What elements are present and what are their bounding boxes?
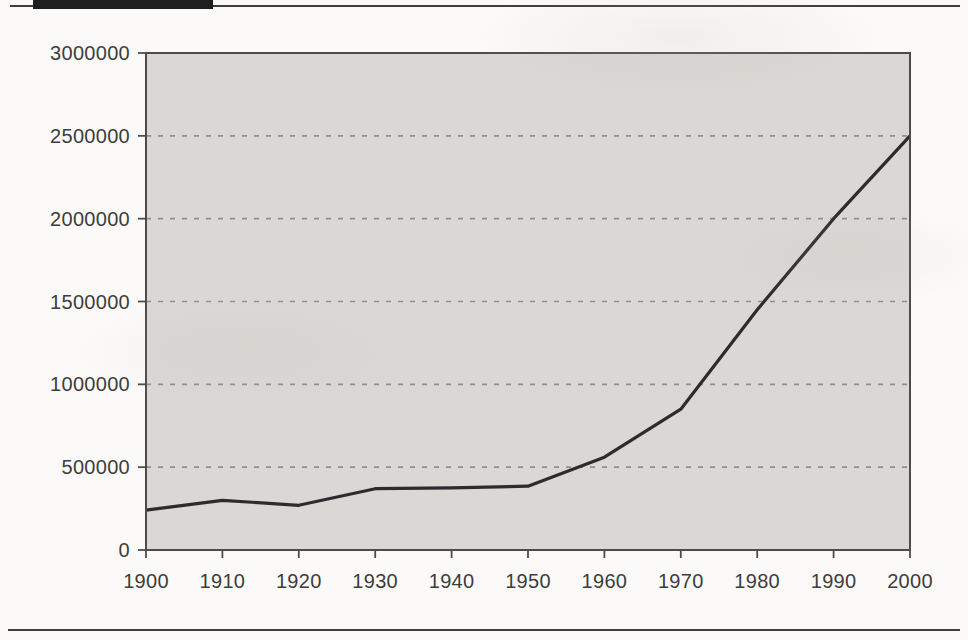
y-axis-label: 2000000 [0,209,130,229]
y-axis-label: 0 [0,540,130,560]
x-axis-label: 1950 [488,571,568,591]
x-axis-label: 1970 [641,571,721,591]
y-axis-label: 2500000 [0,126,130,146]
x-axis-label: 1930 [335,571,415,591]
y-axis-label: 1500000 [0,292,130,312]
y-axis-label: 3000000 [0,43,130,63]
x-axis-label: 2000 [870,571,950,591]
x-axis-label: 1940 [412,571,492,591]
x-axis-label: 1990 [794,571,874,591]
x-axis-label: 1980 [717,571,797,591]
y-axis-label: 500000 [0,457,130,477]
x-axis-label: 1910 [182,571,262,591]
page-bottom-rule [8,629,960,631]
x-axis-label: 1900 [106,571,186,591]
scanned-book-page: 0500000100000015000002000000250000030000… [0,0,968,640]
x-axis-label: 1960 [564,571,644,591]
y-axis-label: 1000000 [0,374,130,394]
plot-area [146,53,910,550]
x-axis-label: 1920 [259,571,339,591]
population-line-chart: 0500000100000015000002000000250000030000… [0,0,968,620]
